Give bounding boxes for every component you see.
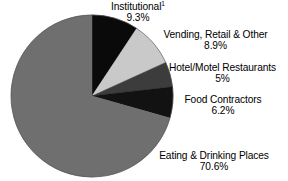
slice-label-name: Vending, Retail & Other: [143, 29, 288, 40]
slice-label-food-contractors: Food Contractors 6.2%: [158, 94, 288, 116]
slice-label-value: 70.6%: [140, 161, 288, 172]
slice-label-value: 5%: [157, 73, 288, 84]
slice-label-name: Hotel/Motel Restaurants: [157, 62, 288, 73]
slice-label-hotel-motel: Hotel/Motel Restaurants 5%: [157, 62, 288, 84]
slice-label-eating-drinking: Eating & Drinking Places 70.6%: [140, 150, 288, 172]
slice-label-name: Food Contractors: [158, 94, 288, 105]
slice-label-value: 8.9%: [143, 40, 288, 51]
slice-label-institutional: Institutional1 9.3%: [90, 1, 186, 23]
slice-label-name: Eating & Drinking Places: [140, 150, 288, 161]
slice-label-value: 9.3%: [90, 12, 186, 23]
footnote-marker: 1: [161, 0, 165, 7]
slice-label-vending: Vending, Retail & Other 8.9%: [143, 29, 288, 51]
slice-label-name: Institutional1: [90, 1, 186, 12]
slice-label-value: 6.2%: [158, 105, 288, 116]
pie-chart: Institutional1 9.3% Vending, Retail & Ot…: [0, 0, 288, 181]
